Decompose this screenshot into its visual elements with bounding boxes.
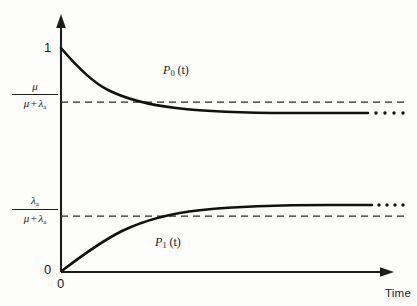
fraction-denominator: μ+λa — [12, 211, 58, 226]
curve-label-argument: (t) — [168, 235, 181, 249]
curve-p1 — [63, 205, 372, 270]
fraction-subscript: a — [36, 200, 39, 208]
curve-p0-trailing-dot — [401, 111, 404, 114]
y-axis-arrow-icon — [56, 14, 66, 28]
curve-label-p0: P0(t) — [163, 64, 189, 78]
fraction-subscript: a — [43, 218, 46, 226]
curve-p0-trailing-dot — [383, 111, 386, 114]
y-tick-fraction-upper: μ μ+λa — [12, 80, 58, 110]
curve-p1-trailing-dot — [401, 203, 404, 206]
plot-canvas — [0, 0, 417, 306]
curve-p0 — [61, 48, 368, 113]
fraction-bar — [12, 209, 58, 210]
curve-p1-trailing-dot — [385, 203, 388, 206]
curve-p0-trailing-dot — [392, 111, 395, 114]
x-tick-label-origin: 0 — [57, 277, 64, 290]
y-tick-fraction-lower: λa μ+λa — [12, 194, 58, 226]
fraction-numerator: λa — [12, 194, 58, 209]
y-tick-label-zero: 0 — [44, 263, 51, 276]
fraction-numerator: μ — [12, 80, 58, 93]
curve-label-argument: (t) — [176, 63, 189, 77]
curve-p0-trailing-dot — [374, 111, 377, 114]
x-axis-arrow-icon — [380, 267, 394, 277]
fraction-denominator: μ+λa — [12, 96, 58, 111]
curve-p1-trailing-dot — [377, 203, 380, 206]
x-axis-title: Time — [385, 288, 411, 300]
fraction-subscript: a — [43, 102, 46, 110]
curve-label-p1: P1(t) — [155, 236, 181, 250]
curve-p1-trailing-dot — [393, 203, 396, 206]
y-tick-label-one: 1 — [44, 41, 51, 54]
fraction-bar — [12, 94, 58, 95]
probability-curves-figure: 1 0 0 Time μ μ+λa λa μ+λa P0(t) P1(t) — [0, 0, 417, 306]
